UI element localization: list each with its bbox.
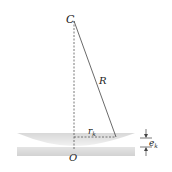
radius-line	[74, 21, 116, 137]
label-ring-radius: rk	[88, 126, 96, 137]
label-gap-e: ek	[149, 138, 158, 149]
plano-convex-lens	[17, 133, 135, 146]
gap-arrow-down-icon	[144, 134, 148, 138]
label-radius-r: R	[98, 75, 107, 86]
newtons-rings-diagram: C R rk O ek	[0, 0, 172, 172]
gap-arrow-up-icon	[144, 147, 148, 151]
label-center-c: C	[66, 13, 75, 26]
label-origin-o: O	[69, 152, 77, 163]
